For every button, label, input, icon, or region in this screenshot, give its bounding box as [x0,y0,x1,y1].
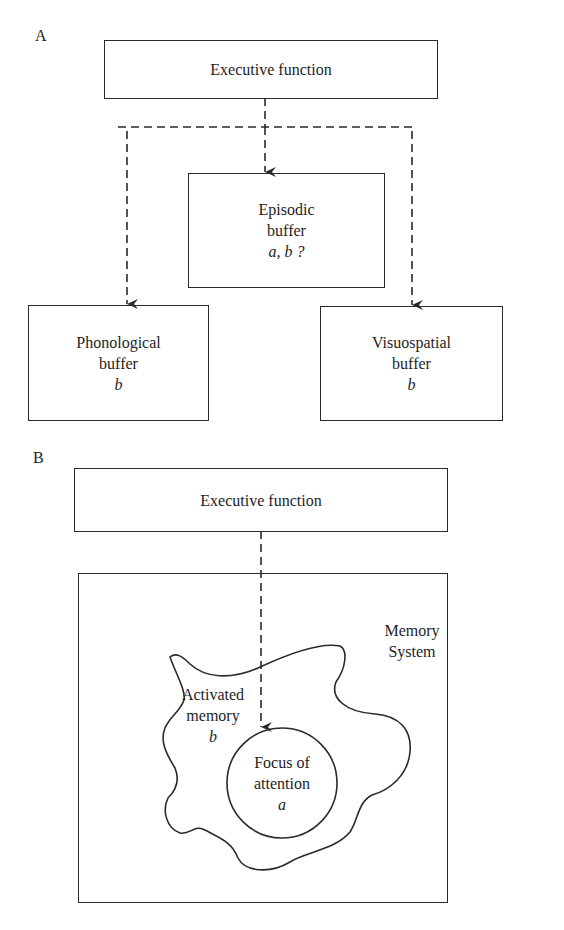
phonological-line2: buffer [99,353,138,374]
visuospatial-line1: Visuospatial [372,332,451,353]
activated-memory-line2: memory [168,705,258,726]
episodic-line1: Episodic [259,199,315,220]
memory-system-line2: System [372,641,452,662]
activated-memory-label: Activated memory b [168,684,258,747]
executive-function-label: Executive function [210,59,331,80]
memory-system-line1: Memory [372,620,452,641]
focus-of-attention-label: Focus of attention a [232,752,332,815]
visuospatial-line3: b [408,374,416,395]
executive-function-box-b: Executive function [74,468,448,532]
focus-line1: Focus of [232,752,332,773]
phonological-line3: b [115,374,123,395]
episodic-line3: a, b ? [269,241,305,262]
executive-function-label-b: Executive function [200,490,321,511]
focus-line3: a [232,794,332,815]
activated-memory-line3: b [168,726,258,747]
episodic-buffer-box: Episodic buffer a, b ? [188,173,385,288]
phonological-line1: Phonological [76,332,160,353]
panel-b-label: B [33,450,44,466]
focus-line2: attention [232,773,332,794]
memory-system-label: Memory System [372,620,452,662]
episodic-line2: buffer [267,220,306,241]
visuospatial-line2: buffer [392,353,431,374]
visuospatial-buffer-box: Visuospatial buffer b [320,306,503,421]
phonological-buffer-box: Phonological buffer b [28,305,209,421]
panel-a-label: A [35,28,47,44]
executive-function-box-a: Executive function [104,40,438,99]
activated-memory-line1: Activated [168,684,258,705]
